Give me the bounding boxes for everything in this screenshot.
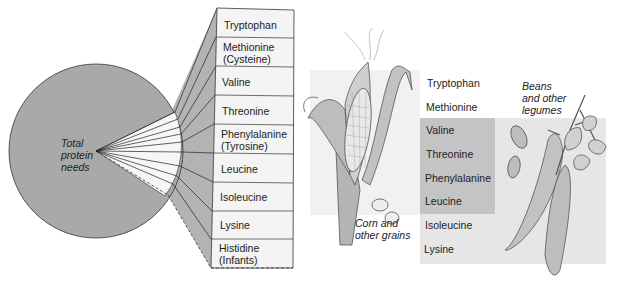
pie-label-line: Total [61, 137, 93, 149]
label-line: (Cysteine) [223, 53, 274, 65]
label-line: Methionine [223, 41, 274, 53]
pie-label-line: needs [61, 161, 93, 173]
label-line: Histidine [219, 242, 259, 254]
pie-label-line: protein [61, 149, 93, 161]
box-label-valine: Valine [222, 76, 250, 88]
box-label-tryptophan: Tryptophan [224, 19, 277, 31]
pie-label: Total protein needs [61, 137, 93, 173]
box-label-isoleucine: Isoleucine [220, 191, 267, 203]
box-label-phenylalanine: Phenylalanine (Tyrosine) [221, 128, 287, 152]
corn-caption: Corn and other grains [355, 217, 410, 241]
caption-line: legumes [522, 104, 566, 116]
box-label-methionine: Methionine (Cysteine) [223, 41, 274, 65]
aa-isoleucine: Isoleucine [425, 219, 472, 231]
label-line: Phenylalanine [221, 128, 287, 140]
beans-caption: Beans and other legumes [522, 80, 566, 116]
aa-lysine: Lysine [424, 243, 454, 255]
aa-methionine: Methionine [426, 101, 477, 113]
aa-phenylalanine: Phenylalanine [425, 172, 491, 184]
box-label-histidine: Histidine (Infants) [219, 242, 259, 266]
caption-line: Beans [522, 80, 566, 92]
label-line: (Tyrosine) [221, 140, 287, 152]
box-label-lysine: Lysine [220, 219, 250, 231]
label-line: (Infants) [219, 254, 259, 266]
box-label-leucine: Leucine [221, 163, 258, 175]
box-label-threonine: Threonine [222, 105, 269, 117]
aa-valine: Valine [426, 124, 454, 136]
caption-line: Corn and [355, 217, 410, 229]
caption-line: other grains [355, 229, 410, 241]
aa-leucine: Leucine [425, 195, 462, 207]
aa-threonine: Threonine [426, 148, 473, 160]
aa-tryptophan: Tryptophan [427, 77, 480, 89]
caption-line: and other [522, 92, 566, 104]
